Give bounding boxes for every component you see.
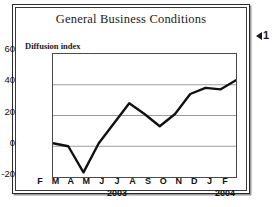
x-axis-tick-label: M — [78, 176, 94, 186]
plot-area — [52, 53, 237, 178]
x-axis-tick-label: O — [155, 176, 171, 186]
data-series-line — [53, 80, 236, 172]
chart-title: General Business Conditions — [13, 12, 249, 27]
y-axis-tick-label: -20 — [0, 168, 15, 179]
x-axis-tick-label: S — [140, 176, 156, 186]
y-axis-tick-label: 0 — [0, 137, 15, 148]
y-axis-tick-label: 40 — [0, 74, 15, 85]
data-line-chart — [53, 54, 236, 177]
callout-marker-number: 1 — [263, 30, 269, 41]
y-axis-tick-label: 60 — [0, 43, 15, 54]
x-axis-tick-label: J — [202, 176, 218, 186]
gridlines — [53, 85, 236, 147]
x-axis-tick-label: D — [186, 176, 202, 186]
x-axis-tick-label: A — [125, 176, 141, 186]
y-axis-tick-label: 20 — [0, 106, 15, 117]
x-axis-year-label: 2004 — [211, 188, 239, 198]
x-axis-tick-label: M — [47, 176, 63, 186]
x-axis-year-label: 2003 — [103, 188, 131, 198]
callout-marker: 1 — [256, 30, 269, 41]
x-axis-tick-label: F — [217, 176, 233, 186]
left-triangle-icon — [256, 32, 262, 40]
chart-figure: General Business Conditions Diffusion in… — [0, 0, 276, 207]
figure-outer-frame: General Business Conditions Diffusion in… — [12, 4, 250, 194]
x-axis-tick-label: J — [94, 176, 110, 186]
x-axis-tick-label: N — [171, 176, 187, 186]
y-axis-label: Diffusion index — [25, 41, 81, 51]
x-axis-tick-label: A — [63, 176, 79, 186]
x-axis-tick-label: J — [109, 176, 125, 186]
x-axis-tick-label: F — [32, 176, 48, 186]
